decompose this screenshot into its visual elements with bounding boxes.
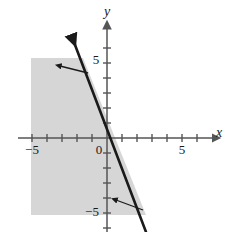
y-axis-label: y: [102, 4, 111, 19]
coordinate-plane-svg: −505 5−5 x y: [0, 0, 228, 232]
tick-label: −5: [85, 204, 99, 219]
tick-label: 5: [179, 142, 186, 157]
tick-label: 5: [93, 52, 100, 67]
tick-label: 0: [96, 142, 103, 157]
tick-label: −5: [25, 142, 39, 157]
x-axis-label: x: [215, 125, 223, 140]
graph-figure: −505 5−5 x y: [0, 0, 228, 232]
